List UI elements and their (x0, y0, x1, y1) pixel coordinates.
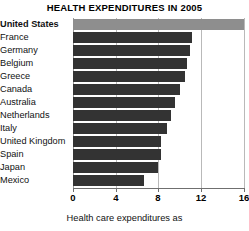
tick-label: 16 (232, 192, 249, 203)
bar-label: Greece (0, 70, 69, 83)
bar (73, 175, 144, 186)
bar (73, 149, 161, 160)
bar-label: France (0, 31, 69, 44)
bar (73, 97, 175, 108)
bar-row: Mexico (0, 174, 249, 187)
bar-row: Italy (0, 122, 249, 135)
bar-label: Italy (0, 122, 69, 135)
tick-label: 0 (61, 192, 85, 203)
bar (73, 123, 167, 134)
bar (73, 136, 161, 147)
bar-label: Germany (0, 44, 69, 57)
bar-label: Canada (0, 83, 69, 96)
bar-label: Netherlands (0, 109, 69, 122)
x-axis-label: Health care expenditures as (0, 213, 249, 223)
x-axis: 0481216 Health care expenditures as (0, 188, 249, 231)
bar-row: Belgium (0, 57, 249, 70)
bar-rows: United StatesFranceGermanyBelgiumGreeceC… (0, 18, 249, 188)
bar (73, 45, 190, 56)
bar-row: Netherlands (0, 109, 249, 122)
tick-label: 12 (189, 192, 213, 203)
bar-label: United Kingdom (0, 135, 69, 148)
bar-label: Spain (0, 148, 69, 161)
bar (73, 162, 158, 173)
bar (73, 19, 244, 30)
bar-row: Canada (0, 83, 249, 96)
bar-row: Australia (0, 96, 249, 109)
health-expenditures-bar-chart: HEALTH EXPENDITURES IN 2005 United State… (0, 0, 249, 231)
bar-row: France (0, 31, 249, 44)
bar-label: United States (0, 18, 69, 31)
bar (73, 58, 187, 69)
bar-row: Japan (0, 161, 249, 174)
bar-row: Greece (0, 70, 249, 83)
bar-row: United States (0, 18, 249, 31)
bar (73, 32, 192, 43)
bar-label: Australia (0, 96, 69, 109)
bar-label: Belgium (0, 57, 69, 70)
bar-label: Mexico (0, 174, 69, 187)
bar-row: Spain (0, 148, 249, 161)
tick-label: 4 (104, 192, 128, 203)
bar (73, 110, 171, 121)
plot-area: United StatesFranceGermanyBelgiumGreeceC… (0, 18, 249, 188)
chart-title: HEALTH EXPENDITURES IN 2005 (0, 2, 249, 13)
bar-row: United Kingdom (0, 135, 249, 148)
bar (73, 71, 185, 82)
bar (73, 84, 180, 95)
tick-label: 8 (146, 192, 170, 203)
bar-row: Germany (0, 44, 249, 57)
bar-label: Japan (0, 161, 69, 174)
